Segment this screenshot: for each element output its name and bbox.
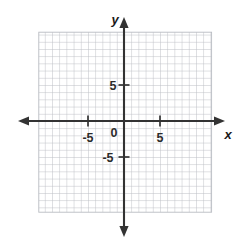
y-axis-label: y: [110, 12, 119, 27]
origin-label: 0: [111, 126, 118, 140]
grid-area: [39, 32, 212, 212]
coordinate-plane-canvas: -5 5 5 -5 0 y x: [0, 0, 241, 244]
coordinate-plane-figure: -5 5 5 -5 0 y x: [0, 0, 241, 244]
y-axis-tick-label-positive-5: 5: [110, 79, 117, 93]
x-axis-label: x: [223, 127, 232, 142]
grid-lines: [39, 32, 212, 212]
x-axis-tick-label-negative-5: -5: [82, 131, 93, 145]
x-axis-tick-label-positive-5: 5: [157, 131, 164, 145]
y-axis-tick-label-negative-5: -5: [102, 151, 113, 165]
